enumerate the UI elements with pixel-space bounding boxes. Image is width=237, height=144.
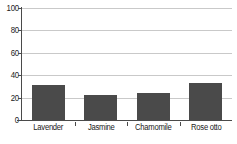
y-tick-label-80: 80 xyxy=(2,26,19,35)
x-tick-mark-2 xyxy=(127,122,128,126)
bar-chamomile xyxy=(137,93,170,120)
y-tick-label-100: 100 xyxy=(2,4,19,13)
y-tick-label-20: 20 xyxy=(2,94,19,103)
y-tick-mark-0 xyxy=(18,120,22,121)
y-tick-label-60: 60 xyxy=(2,49,19,58)
bar-rose-otto xyxy=(189,83,222,120)
x-tick-label-chamomile: Chamomile xyxy=(130,122,177,133)
bars-layer xyxy=(22,8,232,120)
y-tick-mark-60 xyxy=(18,53,22,54)
y-tick-mark-40 xyxy=(18,75,22,76)
y-axis: 020406080100 xyxy=(0,0,19,144)
x-tick-mark-1 xyxy=(75,122,76,126)
y-tick-mark-100 xyxy=(18,8,22,9)
bar-lavender xyxy=(32,85,65,120)
x-tick-label-rose-otto: Rose otto xyxy=(182,122,229,133)
x-axis: LavenderJasmineChamomileRose otto xyxy=(22,122,232,136)
x-tick-label-jasmine: Jasmine xyxy=(77,122,124,133)
bar-chart: 020406080100 LavenderJasmineChamomileRos… xyxy=(0,0,237,144)
x-axis-line xyxy=(17,120,232,121)
bar-jasmine xyxy=(84,95,117,120)
y-tick-mark-80 xyxy=(18,30,22,31)
x-tick-mark-3 xyxy=(180,122,181,126)
y-tick-mark-20 xyxy=(18,98,22,99)
y-tick-label-40: 40 xyxy=(2,71,19,80)
x-tick-label-lavender: Lavender xyxy=(25,122,72,133)
